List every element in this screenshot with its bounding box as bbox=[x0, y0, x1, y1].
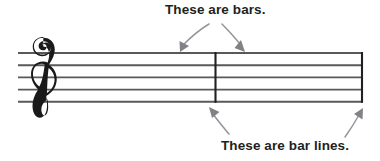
staff-lines bbox=[18, 53, 363, 102]
stave-graphic bbox=[0, 0, 380, 161]
arrow-to-bar-line-middle bbox=[209, 107, 229, 134]
arrow-to-bar-1 bbox=[180, 24, 210, 52]
music-stave-figure: These are bars. These are bar lines. bbox=[0, 0, 380, 161]
arrow-to-bar-line-end bbox=[345, 108, 363, 137]
arrow-to-bar-2 bbox=[222, 24, 245, 52]
